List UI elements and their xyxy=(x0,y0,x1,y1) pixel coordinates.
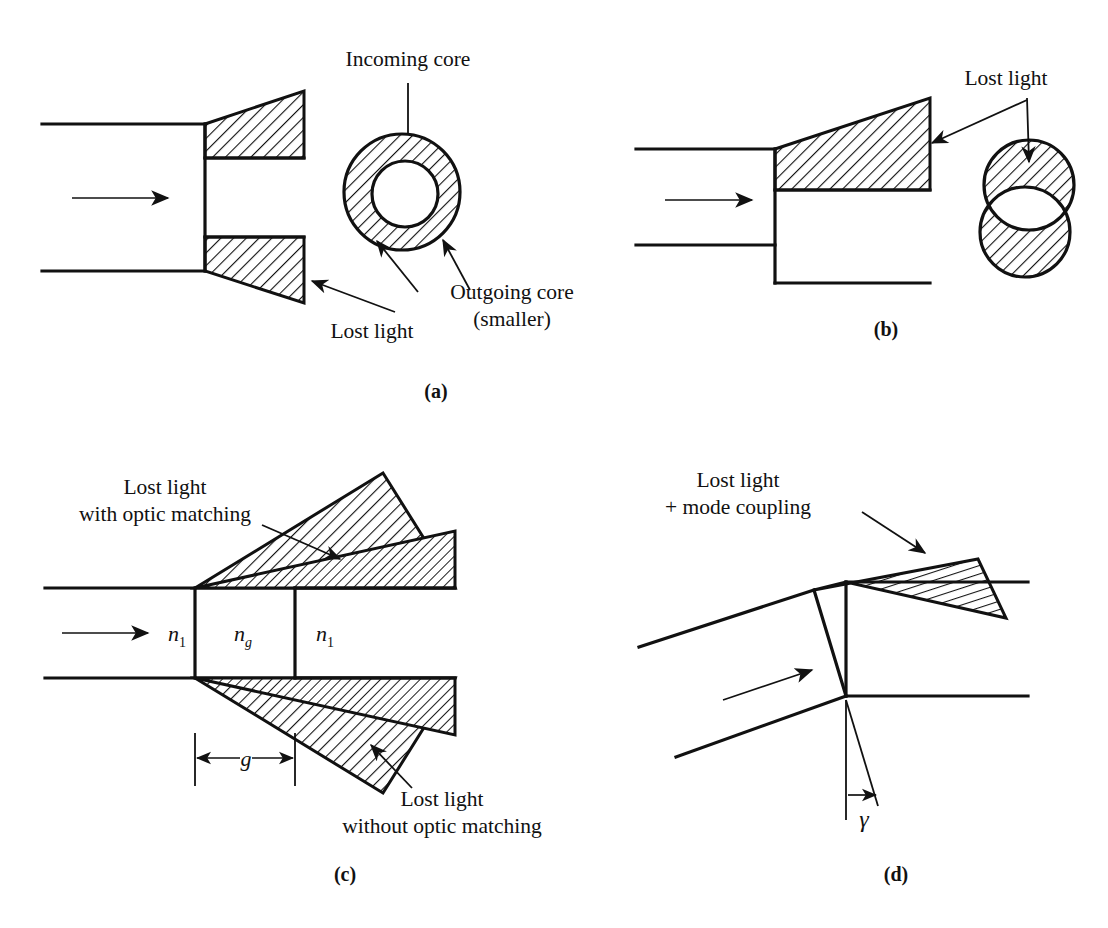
panel-a-incoming-core-label: Incoming core xyxy=(346,47,471,71)
panel-a-lost-light-wedge-top xyxy=(205,91,304,158)
panel-b-core-cross-section xyxy=(980,140,1074,277)
panel-a-core-cross-section xyxy=(344,134,460,250)
panel-a-outgoing-core-label-line1: Outgoing core xyxy=(450,280,574,304)
panel-c-gap-label: g xyxy=(241,746,252,771)
panel-b-id: (b) xyxy=(874,318,898,341)
panel-b-offset-crescent xyxy=(980,140,1074,277)
panel-a-lost-light-label: Lost light xyxy=(330,319,413,343)
figure-root: Incoming core Outgoing core (smaller) Lo… xyxy=(0,0,1108,928)
panel-d-lost-light-leader xyxy=(862,512,925,553)
panel-b-lost-light-label: Lost light xyxy=(964,66,1047,90)
panel-d-lost-light-wedge xyxy=(814,559,1006,618)
panel-d-incoming-wall-bottom xyxy=(676,696,846,757)
panel-b-lost-light-wedge xyxy=(775,98,930,190)
panel-d-tilted-end-face xyxy=(814,590,846,696)
panel-d-lost-light-label-line2: + mode coupling xyxy=(665,495,811,519)
panel-c-id: (c) xyxy=(334,863,356,886)
panel-a-outgoing-core-label-line2: (smaller) xyxy=(473,307,551,331)
panel-a: Incoming core Outgoing core (smaller) Lo… xyxy=(42,47,574,403)
panel-b: Lost light (b) xyxy=(636,66,1074,341)
panel-d-direction-arrow xyxy=(723,670,812,700)
panel-c-index-right: n1 xyxy=(316,621,334,650)
panel-d-incoming-wall-top xyxy=(639,590,814,647)
panel-d-angle-label: γ xyxy=(859,806,869,832)
panel-c: n1 ng n1 g Lost light with optic matchin… xyxy=(45,473,542,886)
panel-a-lost-light-wedge-bottom xyxy=(205,237,304,303)
panel-a-id: (a) xyxy=(424,380,447,403)
panel-c-lost-with-matching-label-line2: with optic matching xyxy=(79,502,251,526)
panel-d-angle-tilt-line xyxy=(846,700,878,806)
panel-a-lost-light-leader xyxy=(312,281,395,312)
panel-a-outgoing-core-circle xyxy=(372,161,438,227)
panel-d-id: (d) xyxy=(884,863,908,886)
panel-b-lost-light-leader-side xyxy=(932,100,1027,143)
panel-c-lost-with-matching-label-line1: Lost light xyxy=(123,475,206,499)
panel-d: γ Lost light + mode coupling (d) xyxy=(639,468,1028,886)
panel-c-index-left: n1 xyxy=(168,621,186,650)
connector-loss-figure: Incoming core Outgoing core (smaller) Lo… xyxy=(0,0,1108,928)
panel-c-lost-without-matching-label-line1: Lost light xyxy=(400,787,483,811)
panel-c-index-gap: ng xyxy=(234,621,252,650)
panel-c-lost-without-matching-label-line2: without optic matching xyxy=(342,814,542,838)
panel-d-lost-light-label-line1: Lost light xyxy=(696,468,779,492)
